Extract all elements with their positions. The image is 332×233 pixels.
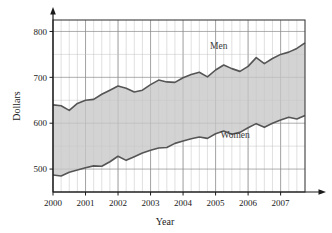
x-tick-label: 2006 — [239, 198, 258, 208]
y-axis-tick-labels: 500600700800 — [34, 27, 48, 175]
x-axis-arrow-icon — [319, 189, 327, 195]
line-area-chart: 500600700800 200020012002200320042005200… — [0, 0, 332, 233]
x-tick-label: 2007 — [272, 198, 291, 208]
y-tick-label: 600 — [34, 118, 48, 128]
x-tick-label: 2000 — [44, 198, 63, 208]
x-tick-label: 2004 — [174, 198, 193, 208]
y-tick-label: 700 — [34, 73, 48, 83]
x-tick-label: 2001 — [77, 198, 95, 208]
x-tick-label: 2003 — [142, 198, 161, 208]
y-tick-label: 800 — [34, 27, 48, 37]
y-axis-arrow-icon — [50, 7, 56, 15]
chart-container: 500600700800 200020012002200320042005200… — [0, 0, 332, 233]
x-tick-label: 2002 — [109, 198, 127, 208]
x-tick-label: 2005 — [207, 198, 226, 208]
x-axis-title: Year — [156, 216, 175, 227]
y-axis-title: Dollars — [11, 91, 22, 121]
series-annotation-women: Women — [220, 130, 250, 140]
series-annotation-men: Men — [210, 41, 228, 51]
x-axis-tick-labels: 20002001200220032004200520062007 — [44, 198, 290, 208]
y-tick-label: 500 — [34, 164, 48, 174]
